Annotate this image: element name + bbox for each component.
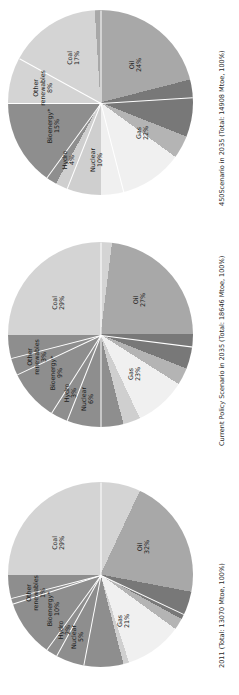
pie-slices-current-policy (8, 242, 193, 427)
slice-label-value: 15% (54, 109, 61, 144)
chart-block-450-scenario: Oil24%Gas22%Nuclear10%Hydro4%Bioenergy*1… (0, 6, 239, 216)
slice-label-oil: Oil24% (129, 58, 143, 72)
slice-label-value: 3% (42, 339, 49, 375)
slice-label-value: 10% (54, 591, 61, 626)
slice-label-value: 9% (57, 356, 64, 391)
slice-edge (100, 335, 101, 427)
slice-edge (100, 335, 192, 348)
slice-edge (100, 242, 101, 335)
caption-450-scenario: 450Scenario in 2035 (Total: 14908 Mtoe, … (218, 51, 226, 206)
slice-label-gas: Gas21% (117, 614, 131, 628)
slice-label-value: 32% (144, 540, 151, 554)
slice-label-other-renewables: Otherrenewables8% (34, 70, 56, 106)
slice-label-bioenergy: Bioenergy*9% (50, 356, 64, 391)
slice-edge (66, 103, 101, 190)
slice-label-coal: Coal29% (52, 536, 66, 550)
slice-label-value: 24% (136, 58, 143, 72)
energy-mix-pie-chart-figure: Oil24%Gas22%Nuclear10%Hydro4%Bioenergy*1… (0, 0, 239, 695)
slice-label-nuclear: Nuclear5% (71, 625, 85, 649)
slice-separators (8, 242, 193, 427)
slice-label-other-renewables: Otherrenewables3% (28, 339, 50, 375)
slice-label-value: 17% (74, 51, 81, 65)
slice-label-coal: Coal29% (52, 296, 66, 310)
pie-2011: Oil32%Gas21%Nuclear5%Hydro2%Bioenergy*10… (8, 482, 198, 672)
slice-edge (100, 575, 185, 616)
chart-block-current-policy: Oil27%Gas23%Nuclear6%Hydro3%Bioenergy*9%… (0, 238, 239, 450)
slice-label-value: 2% (65, 621, 72, 640)
slice-label-hydro: Hydro3% (63, 384, 77, 403)
slice-label-oil: Oil27% (132, 293, 146, 307)
slice-edge (100, 10, 101, 103)
slice-label-value: 22% (143, 126, 150, 140)
caption-current-policy: Current Policy Scenario in 2035 (Total: … (218, 256, 226, 446)
slice-label-value: 6% (88, 387, 95, 411)
slice-label-gas: Gas22% (135, 126, 149, 140)
slice-label-hydro: Hydro4% (62, 151, 76, 170)
slice-label-value: 4% (69, 151, 76, 170)
slice-label-bioenergy: Bioenergy*15% (47, 109, 61, 144)
slice-label-value: 5% (78, 625, 85, 649)
slice-label-value: 10% (97, 148, 104, 172)
slice-label-bioenergy: Bioenergy*10% (46, 591, 60, 626)
slice-label-gas: Gas23% (128, 367, 142, 381)
pie-450-scenario: Oil24%Gas22%Nuclear10%Hydro4%Bioenergy*1… (8, 10, 198, 200)
slice-label-nuclear: Nuclear6% (81, 387, 95, 411)
slice-label-value: 29% (59, 296, 66, 310)
slice-edge (19, 58, 101, 104)
chart-block-2011: Oil32%Gas21%Nuclear5%Hydro2%Bioenergy*10… (0, 478, 239, 690)
slice-label-oil: Oil32% (137, 540, 151, 554)
slice-label-value: 29% (59, 536, 66, 550)
slice-label-value: 8% (48, 70, 55, 106)
slice-label-value: 1% (41, 575, 48, 611)
caption-2011: 2011 (Total: 13070 Mtoe, 100%) (218, 563, 226, 668)
slice-label-coal: Coal17% (67, 51, 81, 65)
slice-label-value: 3% (71, 384, 78, 403)
slice-label-nuclear: Nuclear10% (90, 148, 104, 172)
pie-current-policy: Oil27%Gas23%Nuclear6%Hydro3%Bioenergy*9%… (8, 242, 198, 432)
slice-label-value: 23% (135, 367, 142, 381)
slice-edge (100, 482, 101, 575)
slice-label-value: 27% (140, 293, 147, 307)
slice-label-other-renewables: Otherrenewables1% (26, 575, 48, 611)
slice-edge (100, 97, 193, 104)
slice-label-value: 21% (124, 614, 131, 628)
